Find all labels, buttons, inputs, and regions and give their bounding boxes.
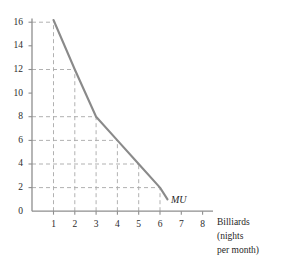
x-tick-label-3: 3 [89,220,103,230]
mu-curve [54,20,168,199]
x-tick-label-2: 2 [68,220,82,230]
x-tick-label-4: 4 [110,220,124,230]
x-tick-label-1: 1 [47,220,61,230]
x-axis-title-line-2: (nights [217,231,243,243]
x-tick-label-5: 5 [132,220,146,230]
y-tick-label-0: 0 [7,207,23,217]
x-tick-label-8: 8 [196,220,210,230]
y-tick-label-4: 4 [7,159,23,169]
y-tick-label-16: 16 [7,18,23,28]
x-axis-title-line-3: per month) [217,245,259,257]
y-tick-label-14: 14 [7,41,23,51]
marginal-utility-chart: 16 14 12 10 8 6 4 2 0 1 2 3 4 5 6 7 8 MU… [0,0,283,273]
guide-lines-horizontal [32,22,160,187]
mu-curve-label: MU [171,195,187,205]
x-tick-label-6: 6 [153,220,167,230]
x-axis-title-line-1: Billiards [217,217,250,229]
y-tick-label-6: 6 [7,136,23,146]
y-tick-label-12: 12 [7,65,23,75]
y-tick-label-8: 8 [7,112,23,122]
y-tick-label-2: 2 [7,183,23,193]
x-tick-label-7: 7 [174,220,188,230]
y-tick-label-10: 10 [7,89,23,99]
